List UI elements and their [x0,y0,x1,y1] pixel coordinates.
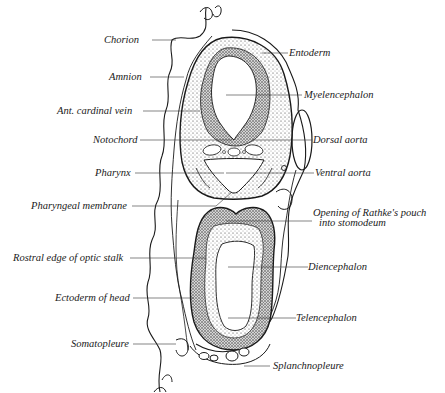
label-somatopleure: Somatopleure [71,338,129,349]
label-telencephalon: Telencephalon [296,312,357,323]
label-pharyngeal-membrane: Pharyngeal membrane [31,200,127,211]
label-diencephalon: Diencephalon [308,261,367,272]
label-entoderm: Entoderm [289,47,330,58]
label-ectoderm-of-head: Ectoderm of head [55,292,130,303]
label-rathkes-pouch-line2: into stomodeum [313,218,443,228]
label-myelencephalon: Myelencephalon [304,89,373,100]
label-ventral-aorta: Ventral aorta [315,167,371,178]
label-chorion: Chorion [104,34,139,45]
label-amnion: Amnion [109,71,142,82]
label-notochord: Notochord [93,134,138,145]
notochord-shape [228,148,240,156]
label-rostral-edge-optic-stalk: Rostral edge of optic stalk [13,252,123,263]
label-ant-cardinal-vein: Ant. cardinal vein [57,105,132,116]
embryo-section-illustration [0,0,445,393]
anatomical-figure: Chorion Amnion Ant. cardinal vein Notoch… [0,0,445,393]
label-pharynx: Pharynx [95,167,131,178]
label-rathkes-pouch: Opening of Rathke's pouch into stomodeum [313,208,443,228]
label-dorsal-aorta: Dorsal aorta [313,134,368,145]
label-splanchnopleure: Splanchnopleure [273,360,344,371]
